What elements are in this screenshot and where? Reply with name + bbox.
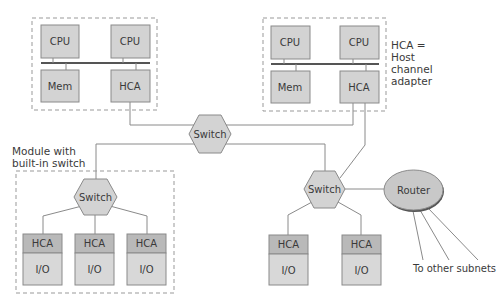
io-label: I/O <box>35 264 49 275</box>
hca-legend: HCA = Host channel adapter <box>391 39 433 87</box>
subnet-link-3 <box>428 208 478 260</box>
io-label: I/O <box>139 264 153 275</box>
hca-label: HCA <box>136 238 158 249</box>
legend-line: HCA = <box>391 39 433 51</box>
legend-line: adapter <box>391 75 433 87</box>
memory-label: Mem <box>278 82 303 93</box>
central-switch: Switch <box>189 115 231 153</box>
switch-label: Switch <box>308 184 341 195</box>
io-device: HCA I/O <box>269 235 308 285</box>
io-device: HCA I/O <box>75 234 114 285</box>
link-central-to-module-switch <box>96 144 194 181</box>
router: Router <box>384 170 444 212</box>
cpu-label: CPU <box>280 37 300 48</box>
legend-line: channel <box>391 63 433 75</box>
memory-label: Mem <box>48 81 73 92</box>
io-device: HCA I/O <box>23 234 62 285</box>
link-module-switch-to-device-1 <box>43 206 82 234</box>
subnet-link-2 <box>420 210 449 260</box>
link-module-switch-to-device-3 <box>110 206 147 234</box>
link-central-to-right-switch <box>226 144 325 171</box>
host-node-right: CPU CPU Mem HCA <box>263 18 386 111</box>
hca-label: HCA <box>32 238 54 249</box>
link-switch-to-device-1 <box>288 202 312 235</box>
hca-label: HCA <box>278 239 300 250</box>
io-label: I/O <box>87 264 101 275</box>
io-device: HCA I/O <box>127 234 166 285</box>
hca-label: HCA <box>348 82 370 93</box>
legend-line: Host <box>391 51 433 63</box>
link-switch-to-device-2 <box>338 202 361 235</box>
hca-label: HCA <box>351 239 373 250</box>
link-left-host-to-central-switch <box>130 102 194 125</box>
io-label: I/O <box>281 265 295 276</box>
subnets-label: To other subnets <box>413 263 496 275</box>
module-caption: Module with built-in switch <box>12 145 86 169</box>
cpu-label: CPU <box>349 37 369 48</box>
link-right-host-to-central-switch <box>226 103 353 125</box>
cpu-label: CPU <box>50 36 70 47</box>
switch-label: Switch <box>193 129 226 140</box>
router-label: Router <box>397 185 431 196</box>
io-label: I/O <box>354 265 368 276</box>
subnet-link-1 <box>413 211 423 260</box>
host-node-left: CPU CPU Mem HCA <box>32 18 157 110</box>
hca-label: HCA <box>84 238 106 249</box>
caption-line: built-in switch <box>12 157 86 169</box>
caption-line: Module with <box>12 145 86 157</box>
switch-label: Switch <box>79 192 112 203</box>
cpu-label: CPU <box>120 36 140 47</box>
io-device: HCA I/O <box>342 235 381 285</box>
hca-label: HCA <box>119 81 141 92</box>
